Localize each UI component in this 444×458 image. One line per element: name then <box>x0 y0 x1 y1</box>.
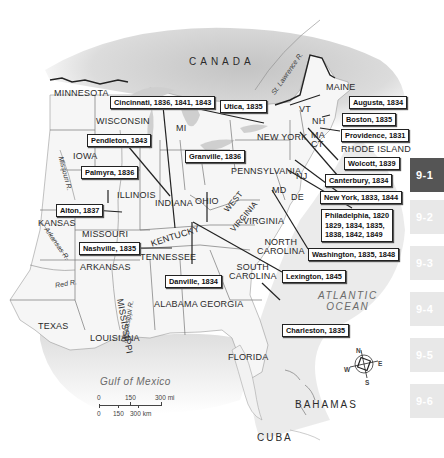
label-maine: MAINE <box>326 83 356 92</box>
scale-mi-300: 300 mi <box>155 394 175 401</box>
label-atlantic: ATLANTIC <box>318 290 378 301</box>
callout-cincinnati: Cincinnati, 1836, 1841, 1843 <box>110 96 215 109</box>
callout-palmyra: Palmyra, 1836 <box>81 166 138 179</box>
label-tennessee: TENNESSEE <box>140 253 196 262</box>
tab-9-5[interactable]: 9-5 <box>410 338 444 372</box>
callout-danville: Danville, 1834 <box>165 275 222 288</box>
label-nj: NJ <box>296 172 307 181</box>
callout-philadelphia-line-1: Philadelphia, 1820 <box>325 211 389 221</box>
label-kansas: KANSAS <box>38 219 76 228</box>
callout-newyork: New York, 1833, 1844 <box>320 191 402 204</box>
label-atlantic-ocean: ATLANTIC OCEAN <box>318 290 378 312</box>
tab-9-3[interactable]: 9-3 <box>410 246 444 280</box>
label-indiana: INDIANA <box>155 199 193 208</box>
scale-km-150: 150 <box>113 410 124 417</box>
compass-n: N <box>356 347 361 354</box>
callout-providence: Providence, 1831 <box>341 129 409 142</box>
compass-e: E <box>378 360 382 367</box>
tab-9-6[interactable]: 9-6 <box>410 384 444 418</box>
scale-tick <box>99 404 100 408</box>
label-north-carolina: NORTH CAROLINA <box>257 238 305 257</box>
label-mi: MI <box>176 124 186 133</box>
label-cuba: CUBA <box>257 433 293 443</box>
tab-9-4[interactable]: 9-4 <box>410 292 444 326</box>
label-carolina: CAROLINA <box>257 247 305 256</box>
callout-augusta: Augusta, 1834 <box>349 96 407 109</box>
scale-tick <box>161 402 162 405</box>
label-nh: NH <box>312 117 325 126</box>
label-rhode-island: RHODE ISLAND <box>341 145 411 154</box>
callout-boston: Boston, 1835 <box>342 113 396 126</box>
callout-utica: Utica, 1835 <box>220 100 267 113</box>
callout-washington: Washington, 1835, 1848 <box>308 248 399 261</box>
label-illinois: ILLINOIS <box>117 191 156 200</box>
label-md: MD <box>272 186 286 195</box>
label-vt: VT <box>299 105 311 114</box>
label-de: DE <box>291 193 304 202</box>
label-ct: CT <box>311 140 323 149</box>
scale-km-0: 0 <box>97 410 101 417</box>
label-bahamas: BAHAMAS <box>295 400 358 410</box>
callout-alton: Alton, 1837 <box>56 204 103 217</box>
callout-philadelphia-line-3: 1838, 1842, 1849 <box>325 230 389 240</box>
label-virginia: VIRGINIA <box>243 217 284 226</box>
callout-charleston: Charleston, 1835 <box>282 324 349 337</box>
scale-mi-0: 0 <box>97 394 101 401</box>
label-georgia: GEORGIA <box>200 300 243 309</box>
scale-km-300: 300 km <box>130 410 151 417</box>
scale-mi-150: 150 <box>125 394 136 401</box>
label-ocean: OCEAN <box>318 301 378 312</box>
label-arkansas: ARKANSAS <box>80 263 131 272</box>
label-carolina-2: CAROLINA <box>229 272 277 281</box>
label-missouri: MISSOURI <box>82 230 128 239</box>
compass-s: S <box>365 379 369 386</box>
label-iowa: IOWA <box>73 152 97 161</box>
callout-granville: Granville, 1836 <box>185 150 245 163</box>
callout-pendleton: Pendleton, 1843 <box>87 134 151 147</box>
compass-w: W <box>344 366 350 373</box>
tab-9-2[interactable]: 9-2 <box>410 200 444 234</box>
callout-canterbury: Canterbury, 1834 <box>325 174 392 187</box>
callout-wolcott: Wolcott, 1839 <box>344 157 400 170</box>
scale-tick <box>118 405 119 408</box>
compass-rose-icon <box>350 350 378 378</box>
scale-tick <box>138 405 139 408</box>
callout-philadelphia-line-2: 1829, 1834, 1835, <box>325 221 389 231</box>
label-louisiana: LOUISIANA <box>90 334 140 343</box>
tab-9-1[interactable]: 9-1 <box>410 158 444 192</box>
label-minnesota: MINNESOTA <box>54 89 109 98</box>
callout-lexington: Lexington, 1845 <box>282 270 346 283</box>
label-south-carolina: SOUTH CAROLINA <box>229 263 277 282</box>
label-canada: CANADA <box>189 57 255 67</box>
scale-tick <box>130 402 131 405</box>
label-alabama: ALABAMA <box>154 300 198 309</box>
label-texas: TEXAS <box>38 322 69 331</box>
label-new-york: NEW YORK <box>257 133 307 142</box>
label-gulf-of-mexico: Gulf of Mexico <box>100 376 171 387</box>
label-pennsylvania: PENNSYLVANIA <box>231 167 301 176</box>
callout-philadelphia: Philadelphia, 1820 1829, 1834, 1835, 183… <box>321 209 393 242</box>
scale-line <box>99 405 162 406</box>
label-wisconsin: WISCONSIN <box>96 117 150 126</box>
label-ohio: OHIO <box>195 197 219 206</box>
label-florida: FLORIDA <box>228 353 268 362</box>
callout-nashville: Nashville, 1835 <box>79 242 140 255</box>
